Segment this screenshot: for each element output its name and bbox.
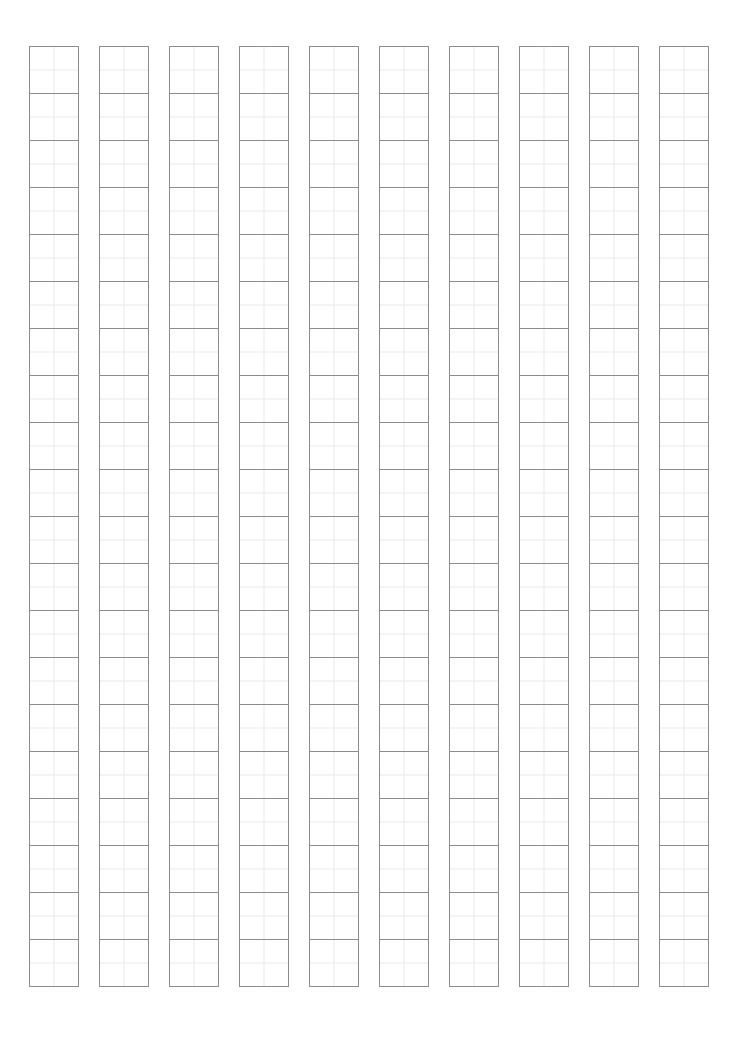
grid-cell[interactable] (589, 328, 639, 376)
grid-cell[interactable] (29, 328, 79, 376)
grid-cell[interactable] (659, 657, 709, 705)
grid-cell[interactable] (519, 328, 569, 376)
grid-cell[interactable] (169, 610, 219, 658)
grid-cell[interactable] (449, 657, 499, 705)
grid-cell[interactable] (309, 375, 359, 423)
grid-cell[interactable] (379, 422, 429, 470)
grid-cell[interactable] (589, 845, 639, 893)
grid-cell[interactable] (169, 798, 219, 846)
grid-cell[interactable] (379, 375, 429, 423)
grid-cell[interactable] (309, 939, 359, 987)
grid-cell[interactable] (239, 281, 289, 329)
grid-cell[interactable] (519, 281, 569, 329)
grid-cell[interactable] (239, 140, 289, 188)
grid-cell[interactable] (659, 751, 709, 799)
grid-cell[interactable] (519, 516, 569, 564)
grid-cell[interactable] (29, 375, 79, 423)
grid-cell[interactable] (379, 187, 429, 235)
grid-cell[interactable] (239, 845, 289, 893)
grid-cell[interactable] (239, 93, 289, 141)
grid-cell[interactable] (239, 751, 289, 799)
grid-cell[interactable] (449, 422, 499, 470)
grid-cell[interactable] (99, 845, 149, 893)
grid-cell[interactable] (169, 704, 219, 752)
grid-cell[interactable] (239, 234, 289, 282)
grid-cell[interactable] (99, 375, 149, 423)
grid-cell[interactable] (449, 516, 499, 564)
grid-cell[interactable] (379, 563, 429, 611)
grid-cell[interactable] (589, 93, 639, 141)
grid-cell[interactable] (379, 751, 429, 799)
grid-cell[interactable] (379, 939, 429, 987)
grid-cell[interactable] (29, 845, 79, 893)
grid-cell[interactable] (589, 469, 639, 517)
grid-cell[interactable] (29, 516, 79, 564)
grid-cell[interactable] (449, 845, 499, 893)
grid-cell[interactable] (29, 469, 79, 517)
grid-cell[interactable] (449, 610, 499, 658)
grid-cell[interactable] (589, 892, 639, 940)
grid-cell[interactable] (29, 422, 79, 470)
grid-cell[interactable] (169, 328, 219, 376)
grid-cell[interactable] (379, 516, 429, 564)
grid-cell[interactable] (239, 704, 289, 752)
grid-cell[interactable] (589, 704, 639, 752)
grid-cell[interactable] (29, 93, 79, 141)
grid-cell[interactable] (29, 798, 79, 846)
grid-cell[interactable] (29, 751, 79, 799)
grid-cell[interactable] (379, 845, 429, 893)
grid-cell[interactable] (309, 422, 359, 470)
grid-cell[interactable] (659, 845, 709, 893)
grid-cell[interactable] (239, 375, 289, 423)
grid-cell[interactable] (519, 140, 569, 188)
grid-cell[interactable] (449, 187, 499, 235)
grid-cell[interactable] (449, 939, 499, 987)
grid-cell[interactable] (309, 563, 359, 611)
grid-cell[interactable] (99, 93, 149, 141)
grid-cell[interactable] (519, 751, 569, 799)
grid-cell[interactable] (239, 46, 289, 94)
grid-cell[interactable] (659, 892, 709, 940)
grid-cell[interactable] (449, 704, 499, 752)
grid-cell[interactable] (169, 657, 219, 705)
grid-cell[interactable] (589, 281, 639, 329)
grid-cell[interactable] (29, 610, 79, 658)
grid-cell[interactable] (379, 46, 429, 94)
grid-cell[interactable] (519, 93, 569, 141)
grid-cell[interactable] (449, 892, 499, 940)
grid-cell[interactable] (589, 610, 639, 658)
grid-cell[interactable] (169, 751, 219, 799)
grid-cell[interactable] (99, 704, 149, 752)
grid-cell[interactable] (309, 845, 359, 893)
grid-cell[interactable] (519, 610, 569, 658)
grid-cell[interactable] (379, 328, 429, 376)
grid-cell[interactable] (169, 563, 219, 611)
grid-cell[interactable] (169, 140, 219, 188)
grid-cell[interactable] (309, 140, 359, 188)
grid-cell[interactable] (519, 845, 569, 893)
grid-cell[interactable] (589, 187, 639, 235)
grid-cell[interactable] (659, 93, 709, 141)
grid-cell[interactable] (29, 563, 79, 611)
grid-cell[interactable] (29, 281, 79, 329)
grid-cell[interactable] (519, 422, 569, 470)
grid-cell[interactable] (169, 234, 219, 282)
grid-cell[interactable] (379, 798, 429, 846)
grid-cell[interactable] (309, 469, 359, 517)
grid-cell[interactable] (169, 845, 219, 893)
grid-cell[interactable] (519, 46, 569, 94)
grid-cell[interactable] (589, 939, 639, 987)
grid-cell[interactable] (659, 46, 709, 94)
grid-cell[interactable] (379, 234, 429, 282)
grid-cell[interactable] (29, 234, 79, 282)
grid-cell[interactable] (379, 610, 429, 658)
grid-cell[interactable] (659, 516, 709, 564)
grid-cell[interactable] (659, 563, 709, 611)
grid-cell[interactable] (659, 704, 709, 752)
grid-cell[interactable] (449, 798, 499, 846)
grid-cell[interactable] (309, 657, 359, 705)
grid-cell[interactable] (99, 234, 149, 282)
grid-cell[interactable] (519, 469, 569, 517)
grid-cell[interactable] (589, 751, 639, 799)
grid-cell[interactable] (99, 892, 149, 940)
